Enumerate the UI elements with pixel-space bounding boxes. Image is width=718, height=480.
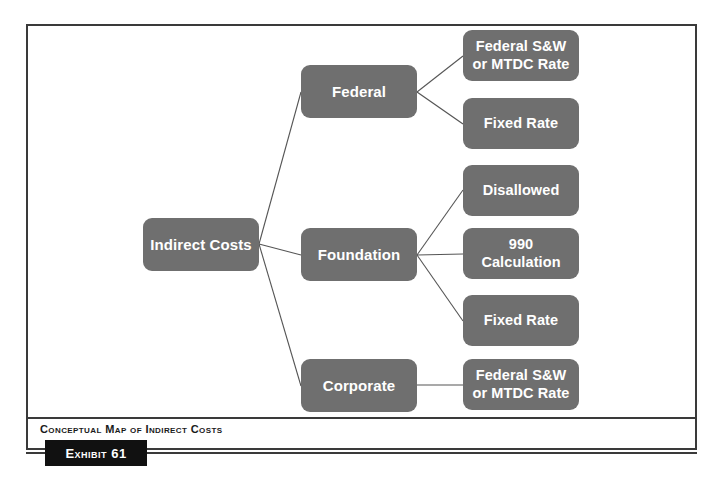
connector-federal-swmtdc [417, 56, 463, 92]
node-federal-sw-or-mtdc-rate[interactable]: Federal S&W or MTDC Rate [463, 30, 579, 81]
node-label-line2: or MTDC Rate [472, 56, 569, 73]
node-federal-fixed-rate[interactable]: Fixed Rate [463, 98, 579, 149]
node-disallowed[interactable]: Disallowed [463, 165, 579, 216]
figure-caption: Conceptual Map of Indirect Costs [40, 423, 222, 435]
connector-foundation-disallowed [417, 190, 463, 255]
exhibit-badge: Exhibit 61 [45, 440, 147, 466]
node-label-block: 990 Calculation [481, 236, 560, 270]
node-label: Fixed Rate [484, 115, 558, 132]
node-label-line1: Federal S&W [472, 38, 569, 55]
node-label: Corporate [323, 377, 396, 395]
node-label: Foundation [318, 246, 401, 264]
node-corporate-sw-or-mtdc-rate[interactable]: Federal S&W or MTDC Rate [463, 359, 579, 410]
node-label: Federal [332, 83, 386, 101]
node-label-block: Federal S&W or MTDC Rate [472, 367, 569, 401]
diagram-canvas: Indirect Costs Federal Foundation Corpor… [0, 0, 718, 480]
connector-root-federal [259, 92, 301, 244]
node-corporate[interactable]: Corporate [301, 359, 417, 412]
connector-foundation-990 [417, 254, 463, 255]
node-label: Fixed Rate [484, 312, 558, 329]
node-foundation-fixed-rate[interactable]: Fixed Rate [463, 295, 579, 346]
connector-root-corporate [259, 244, 301, 386]
node-label-line2: Calculation [481, 254, 560, 271]
connector-federal-fixed [417, 92, 463, 124]
node-990-calculation[interactable]: 990 Calculation [463, 228, 579, 279]
node-label: Disallowed [483, 182, 560, 199]
connector-foundation-fixed [417, 255, 463, 321]
node-label-line1: 990 [481, 236, 560, 253]
node-label-block: Federal S&W or MTDC Rate [472, 38, 569, 72]
connector-root-foundation [259, 244, 301, 255]
node-label-line2: or MTDC Rate [472, 385, 569, 402]
node-indirect-costs[interactable]: Indirect Costs [143, 218, 259, 271]
node-foundation[interactable]: Foundation [301, 228, 417, 281]
exhibit-page: Indirect Costs Federal Foundation Corpor… [0, 0, 718, 480]
node-label: Indirect Costs [150, 236, 251, 254]
node-federal[interactable]: Federal [301, 65, 417, 118]
node-label-line1: Federal S&W [472, 367, 569, 384]
